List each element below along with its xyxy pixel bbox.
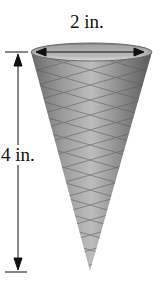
height-label: 4 in. bbox=[0, 145, 36, 165]
width-label: 2 in. bbox=[70, 12, 104, 32]
